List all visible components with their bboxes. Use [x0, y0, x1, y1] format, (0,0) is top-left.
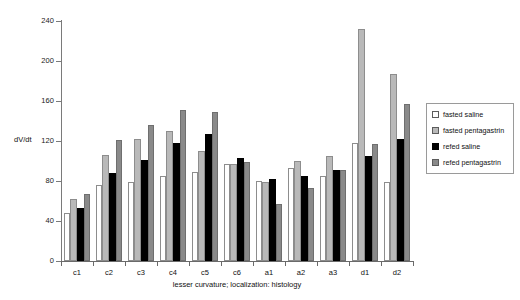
bar [77, 208, 84, 261]
x-tick-mark [381, 261, 382, 266]
bar [148, 125, 155, 261]
x-tick-mark [125, 261, 126, 266]
bar-group [61, 21, 93, 261]
bar [276, 204, 283, 261]
bar [173, 143, 180, 261]
bar [358, 29, 365, 261]
x-tick-mark [349, 261, 350, 266]
bar [134, 139, 141, 261]
x-axis-title: lesser curvature; localization: histolog… [61, 280, 413, 289]
bar [390, 74, 397, 261]
bar [262, 182, 269, 261]
bar [84, 194, 91, 261]
y-tick-label: 0 [14, 257, 54, 265]
light-gray-square-swatch-icon [432, 127, 439, 134]
bar [308, 188, 315, 261]
bar-group [381, 21, 413, 261]
bar-group [125, 21, 157, 261]
bar [166, 131, 173, 261]
bar [397, 139, 404, 261]
x-category-label: d2 [377, 268, 417, 277]
bar [141, 160, 148, 261]
bar [198, 151, 205, 261]
legend-item: refed saline [432, 142, 509, 151]
bar-group [93, 21, 125, 261]
legend-item: refed pentagastrin [432, 158, 509, 167]
bar [180, 110, 187, 261]
x-axis-line [61, 261, 414, 262]
x-tick-mark [157, 261, 158, 266]
bar [340, 170, 347, 261]
bar [230, 164, 237, 261]
bar [244, 162, 251, 261]
bar-chart: 04080120160200240 dV/dt c1c2c3c4c5c6a1a2… [0, 0, 520, 300]
bar [294, 161, 301, 261]
bar [116, 140, 123, 261]
bar [102, 155, 109, 261]
white-square-swatch-icon [432, 111, 439, 118]
bar [70, 199, 77, 261]
bar [96, 185, 103, 261]
bar [372, 144, 379, 261]
legend: fasted salinefasted pentagastrinrefed sa… [426, 103, 514, 174]
bar-group [317, 21, 349, 261]
legend-item-label: refed saline [443, 143, 480, 151]
bar [301, 176, 308, 261]
y-tick-label: 80 [14, 177, 54, 185]
legend-item: fasted saline [432, 110, 509, 119]
x-tick-mark [285, 261, 286, 266]
bar-group [189, 21, 221, 261]
x-tick-mark [317, 261, 318, 266]
bar-group [349, 21, 381, 261]
bar [384, 182, 391, 261]
y-tick-label: 160 [14, 97, 54, 105]
bar [365, 156, 372, 261]
bar [288, 168, 295, 261]
plot-area [61, 21, 413, 261]
x-tick-mark [413, 261, 414, 266]
bar [128, 182, 135, 261]
legend-item-label: refed pentagastrin [443, 159, 501, 167]
bar [192, 172, 199, 261]
bar-group [253, 21, 285, 261]
bar [212, 112, 219, 261]
bar [269, 179, 276, 261]
legend-item-label: fasted saline [443, 111, 483, 119]
bar [404, 104, 411, 261]
x-tick-mark [253, 261, 254, 266]
bar [320, 176, 327, 261]
y-tick-label: 40 [14, 217, 54, 225]
bar [333, 170, 340, 261]
y-axis-title: dV/dt [14, 135, 32, 144]
x-tick-mark [61, 261, 62, 266]
bar [237, 158, 244, 261]
bar [224, 164, 231, 261]
bar [352, 143, 359, 261]
x-tick-mark [221, 261, 222, 266]
y-tick-label: 240 [14, 17, 54, 25]
legend-item: fasted pentagastrin [432, 126, 509, 135]
medium-gray-square-swatch-icon [432, 159, 439, 166]
y-tick-label: 200 [14, 57, 54, 65]
x-tick-mark [189, 261, 190, 266]
bar-group [285, 21, 317, 261]
bar-group [157, 21, 189, 261]
x-tick-mark [93, 261, 94, 266]
bar [109, 173, 116, 261]
bar-group [221, 21, 253, 261]
y-axis-tick-labels: 04080120160200240 [10, 0, 54, 300]
bar [326, 156, 333, 261]
bar [205, 134, 212, 261]
bar [64, 213, 71, 261]
bar [256, 181, 263, 261]
black-square-swatch-icon [432, 143, 439, 150]
legend-item-label: fasted pentagastrin [443, 127, 504, 135]
bar [160, 176, 167, 261]
